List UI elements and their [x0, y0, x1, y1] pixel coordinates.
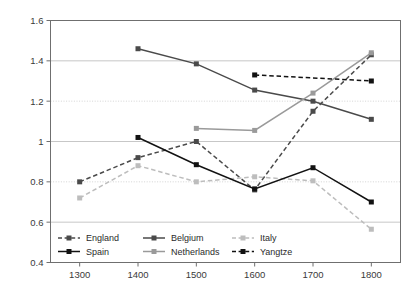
data-point-marker: [136, 135, 141, 140]
data-point-marker: [136, 155, 141, 160]
x-tick-label: 1600: [244, 269, 265, 280]
x-tick-label: 1700: [302, 269, 323, 280]
legend-label: Yangtze: [260, 247, 292, 257]
data-point-marker: [252, 174, 257, 179]
data-point-marker: [252, 186, 257, 191]
data-point-marker: [194, 179, 199, 184]
legend-marker-swatch: [67, 236, 72, 241]
data-point-marker: [252, 88, 257, 93]
x-tick-label: 1500: [186, 269, 207, 280]
legend-label: Spain: [86, 247, 109, 257]
data-point-marker: [252, 128, 257, 133]
data-point-marker: [369, 117, 374, 122]
legend-marker-swatch: [152, 236, 157, 241]
legend-item-england[interactable]: England: [58, 233, 119, 243]
x-tick-label: 1800: [361, 269, 382, 280]
series-england: [77, 52, 374, 192]
data-point-marker: [194, 126, 199, 131]
x-tick-label: 1400: [127, 269, 148, 280]
series-line: [196, 53, 371, 131]
y-tick-label: 1.4: [30, 55, 43, 66]
legend-item-italy[interactable]: Italy: [232, 233, 277, 243]
chart-legend: EnglandBelgiumItalySpainNetherlandsYangt…: [58, 233, 292, 257]
series-spain: [136, 135, 374, 205]
series-belgium: [136, 46, 374, 122]
data-point-marker: [194, 139, 199, 144]
data-point-marker: [194, 162, 199, 167]
data-point-marker: [369, 50, 374, 55]
data-point-marker: [311, 91, 316, 96]
data-point-marker: [77, 179, 82, 184]
legend-marker-swatch: [241, 236, 246, 241]
gridlines: [51, 21, 401, 223]
series-yangtze: [252, 72, 374, 83]
x-axis-ticks: 130014001500160017001800: [69, 263, 382, 280]
x-tick-label: 1300: [69, 269, 90, 280]
series-line: [255, 75, 372, 81]
legend-label: England: [86, 233, 119, 243]
legend-item-belgium[interactable]: Belgium: [143, 233, 204, 243]
y-axis-ticks: 0.40.60.811.21.41.6: [30, 15, 50, 268]
legend-marker-swatch: [67, 249, 72, 254]
series-italy: [77, 163, 374, 232]
series-line: [80, 166, 372, 230]
data-point-marker: [252, 72, 257, 77]
data-point-marker: [369, 200, 374, 205]
series-line: [80, 55, 372, 190]
legend-label: Netherlands: [171, 247, 220, 257]
y-tick-label: 0.8: [30, 176, 43, 187]
legend-item-netherlands[interactable]: Netherlands: [143, 247, 220, 257]
data-point-marker: [311, 109, 316, 114]
y-tick-label: 1.6: [30, 15, 43, 26]
series-line: [138, 49, 371, 120]
data-point-marker: [311, 99, 316, 104]
y-tick-label: 1.2: [30, 96, 43, 107]
legend-item-yangtze[interactable]: Yangtze: [232, 247, 292, 257]
data-point-marker: [136, 163, 141, 168]
data-series-group: [77, 46, 374, 232]
data-point-marker: [77, 195, 82, 200]
chart-canvas: 0.40.60.811.21.41.6 13001400150016001700…: [0, 0, 416, 294]
data-point-marker: [311, 165, 316, 170]
data-point-marker: [194, 61, 199, 66]
data-point-marker: [369, 227, 374, 232]
y-tick-label: 0.6: [30, 217, 43, 228]
data-point-marker: [136, 46, 141, 51]
line-chart: 0.40.60.811.21.41.6 13001400150016001700…: [0, 0, 416, 294]
legend-marker-swatch: [152, 249, 157, 254]
y-tick-label: 1: [38, 136, 43, 147]
legend-label: Belgium: [171, 233, 204, 243]
legend-item-spain[interactable]: Spain: [58, 247, 109, 257]
legend-label: Italy: [260, 233, 277, 243]
legend-marker-swatch: [241, 249, 246, 254]
series-netherlands: [194, 50, 374, 133]
y-tick-label: 0.4: [30, 257, 43, 268]
data-point-marker: [369, 79, 374, 84]
data-point-marker: [311, 178, 316, 183]
